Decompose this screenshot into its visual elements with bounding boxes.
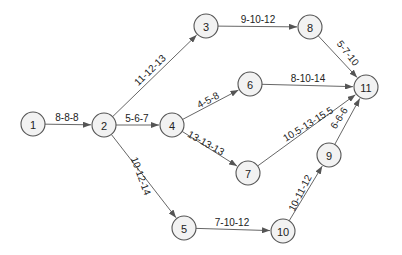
edge-label: 7-10-12 (215, 217, 250, 228)
node-label: 10 (277, 226, 289, 238)
node-label: 7 (245, 168, 251, 180)
arrow-line (45, 124, 91, 125)
edge-label: 13-13-13 (186, 128, 227, 157)
edge-label: 10-12-14 (129, 155, 153, 197)
node-8: 8 (298, 15, 322, 39)
node-10: 10 (271, 219, 295, 243)
edge-label: 11-12-13 (132, 52, 168, 88)
node-label: 11 (360, 82, 371, 94)
arrow-line (262, 84, 353, 86)
nodes-layer: 1234567891011 (21, 14, 378, 243)
node-label: 5 (181, 223, 187, 235)
edge-label: 9-10-12 (241, 14, 276, 25)
edge-label: 4-5-8 (195, 89, 221, 110)
node-2: 2 (92, 113, 116, 137)
node-label: 1 (30, 119, 36, 131)
node-label: 4 (169, 120, 175, 132)
edge-label: 5-7-10 (335, 38, 362, 68)
node-label: 6 (247, 79, 253, 91)
arrow-line (196, 228, 270, 230)
node-11: 11 (354, 75, 378, 99)
edge-6-11 (262, 84, 353, 86)
edge-1-2 (45, 124, 91, 125)
edge-label: 10.5-13-15.5 (281, 104, 335, 144)
edge-label: 5-6-7 (125, 113, 149, 124)
arrow-line (113, 35, 197, 117)
edge-3-8 (218, 26, 297, 27)
node-label: 9 (326, 150, 332, 162)
edge-label: 10-11-12 (286, 173, 314, 213)
node-9: 9 (317, 143, 341, 167)
edge-label: 8-8-8 (55, 112, 79, 123)
node-6: 6 (238, 72, 262, 96)
node-3: 3 (194, 14, 218, 38)
edge-label: 8-10-14 (291, 73, 326, 84)
network-diagram: 8-8-811-12-135-6-710-12-149-10-124-5-813… (0, 0, 402, 255)
node-label: 2 (101, 120, 107, 132)
arrow-line (218, 26, 297, 27)
edge-5-10 (196, 228, 270, 230)
node-5: 5 (172, 216, 196, 240)
node-7: 7 (236, 161, 260, 185)
node-4: 4 (160, 113, 184, 137)
node-label: 3 (203, 21, 209, 33)
edge-2-3 (113, 35, 197, 117)
node-label: 8 (307, 22, 313, 34)
node-1: 1 (21, 112, 45, 136)
